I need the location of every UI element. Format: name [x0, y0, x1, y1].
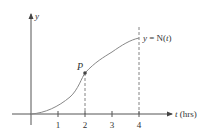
- t-axis-unit: (hrs): [178, 109, 197, 119]
- curve-label: y = N(t): [142, 33, 172, 43]
- t-axis-label: t (hrs): [175, 109, 197, 119]
- curve-label-close: ): [169, 33, 172, 43]
- growth-curve-chart: P 1 2 3 4 y t (hrs) y = N(t): [0, 0, 214, 135]
- tick-label-2: 2: [83, 120, 88, 130]
- tick-label-3: 3: [110, 120, 115, 130]
- tick-label-1: 1: [56, 120, 61, 130]
- point-p: [83, 71, 87, 75]
- tick-label-4: 4: [137, 120, 142, 130]
- curve-label-eq: = N(: [147, 33, 166, 43]
- point-p-label: P: [76, 61, 83, 72]
- y-axis-label: y: [34, 11, 39, 21]
